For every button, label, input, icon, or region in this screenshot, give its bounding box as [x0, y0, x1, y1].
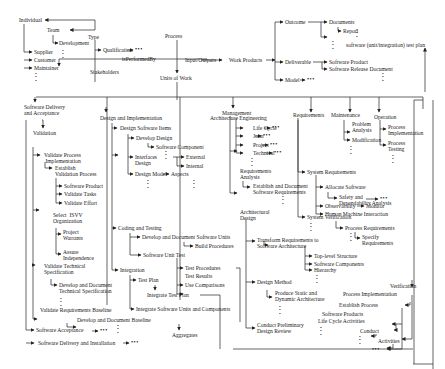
node-software-acceptance: Software Acceptance: [36, 327, 83, 333]
ellipsis-vertical: •••: [193, 179, 195, 189]
ellipsis-vertical: •••: [165, 150, 167, 160]
node-qualification: Qualification: [103, 47, 133, 53]
node-maintenance: Maintenance: [331, 112, 360, 118]
node-develop-design: Develop Design: [136, 135, 172, 141]
ellipsis: •••: [100, 327, 108, 333]
node-work-products: Work Products: [229, 57, 262, 63]
node-establish-document-software-requirements: Establish and DocumentSoftware Requireme…: [253, 183, 308, 196]
node-management: Management: [222, 110, 251, 116]
node-life-cycle-activities: Life Cycle Activities: [318, 318, 365, 324]
node-specify-requirements: SpecifyRequirements: [362, 234, 393, 247]
node-internal: Internal: [186, 163, 203, 169]
node-use-comparisons: Use Comparisons: [185, 282, 225, 288]
ellipsis-vertical: •••: [359, 335, 361, 345]
node-develop-document-baseline: Develop and Document Baseline: [77, 317, 151, 323]
node-process: Process: [165, 33, 182, 39]
ellipsis-vertical: •••: [60, 297, 62, 307]
node-assure-independence: AssureIndependence: [63, 249, 94, 262]
node-validate-technical-specification: Validate TechnicalSpecification: [44, 263, 85, 276]
node-units-of-work: Units of Work: [160, 75, 192, 81]
node-development: Development: [59, 40, 89, 46]
node-maintainer: Maintainer: [34, 65, 59, 71]
node-outcome: Outcome: [285, 19, 306, 25]
node-test-plan: software (unit/integration) test plan: [346, 42, 425, 48]
label: and Acceptance: [24, 110, 59, 116]
node-project-warrants: ProjectWarrants: [63, 229, 83, 242]
node-validation: Validation: [33, 130, 56, 136]
node-system-verification: System Verification: [307, 214, 351, 220]
node-process-testing: ProcessTesting: [388, 140, 405, 153]
node-type: Type: [88, 34, 99, 40]
node-process-requirements: Process Requirements: [345, 225, 395, 231]
ellipsis-vertical: •••: [279, 305, 281, 315]
node-individual: Individual: [19, 17, 42, 23]
node-select-isvv-organization: Select ISVVOrganization: [53, 212, 83, 225]
node-allocate-software: Allocate Software: [325, 184, 366, 190]
ellipsis-vertical: •••: [356, 28, 358, 38]
node-team: Team: [47, 27, 59, 33]
node-aspects: Aspects: [171, 171, 189, 177]
node-software-unit-test: Software Unit Test: [143, 252, 185, 258]
edge-input-outputs: Input/Outputs: [185, 57, 216, 63]
node-integrate-test-plan: Integrate Test Plan: [147, 292, 189, 298]
node-develop-document-software-units: Develop and Document Software Units: [142, 234, 230, 240]
node-system-requirements: System Requirements: [307, 169, 356, 175]
node-supplier: Supplier: [34, 49, 53, 55]
ellipsis-vertical: •••: [282, 195, 284, 205]
node-software-product: Software Product: [329, 59, 368, 65]
ellipsis-vertical: •••: [147, 179, 149, 189]
node-test-results: Test Results: [185, 273, 212, 279]
ellipsis-vertical: •••: [332, 40, 334, 50]
node-conduct-preliminary-design-review: Conduct PreliminaryDesign Review: [257, 322, 304, 335]
ellipsis: •••: [380, 195, 388, 201]
node-requirements-analysis: RequirementsAnalysis: [240, 168, 271, 181]
ellipsis: •••: [263, 132, 271, 138]
node-customer: Customer: [34, 57, 56, 63]
ellipsis: •••: [372, 346, 380, 352]
node-problem-analysis: ProblemAnalysis: [352, 121, 372, 134]
ellipsis-vertical: •••: [316, 274, 318, 284]
node-verification: Verification: [390, 283, 416, 289]
node-process-implementation-op: ProcessImplementation: [388, 124, 423, 137]
node-coding-and-testing: Coding and Testing: [118, 225, 162, 231]
node-technical: Technical: [253, 150, 275, 156]
node-stakeholders: Stakeholders: [90, 69, 119, 75]
ellipsis-vertical: •••: [310, 222, 312, 232]
node-top-level-structure: Top-level Structure: [314, 253, 357, 259]
node-requirements: Requirements: [293, 112, 324, 118]
node-documents: Documents: [329, 19, 354, 25]
ellipsis-vertical: •••: [392, 154, 394, 164]
node-design-software-items: Design Software Items: [120, 125, 171, 131]
node-project: Project: [253, 142, 269, 148]
ellipsis-vertical: •••: [320, 326, 322, 336]
ellipsis-vertical: •••: [117, 324, 119, 334]
node-software-component: Software Component: [156, 144, 204, 150]
node-integrate-software-units-components: Integrate Software Units and Components: [136, 306, 230, 312]
node-test-plan-int: Test Plan: [138, 277, 159, 283]
node-software-product-val: Software Product: [64, 183, 103, 189]
label: Software Delivery: [24, 104, 65, 110]
node-test-procedures: Test Procedures: [185, 265, 221, 271]
node-build-procedures: Build Procedures: [195, 243, 234, 249]
node-process-implementation-ver: Process Implementation: [343, 291, 397, 297]
ellipsis: •••: [270, 141, 278, 147]
ellipsis-vertical: •••: [35, 72, 37, 82]
node-transform-requirements: Transform Requirements toSoftware Archit…: [257, 237, 319, 250]
node-software-products: Software Products: [322, 311, 363, 317]
node-establish-process: Establish Process: [339, 302, 378, 308]
ellipsis: •••: [272, 124, 280, 130]
node-model: Model: [285, 77, 300, 83]
node-design-model: Design Model: [135, 171, 167, 177]
node-design-and-implementation: Design and Implementation: [100, 115, 162, 121]
ellipsis-vertical: •••: [350, 145, 352, 155]
node-software-delivery-installation: Software Delivery and Installation: [38, 340, 115, 346]
ellipsis-vertical: •••: [382, 72, 384, 82]
node-observability: Observability: [325, 203, 355, 209]
node-activities: Activities: [378, 338, 400, 344]
node-develop-document-technical-specification: Develop and DocumentTechnical Specificat…: [59, 282, 112, 295]
node-validate-requirements-baseline: Validate Requirements Baseline: [40, 307, 111, 313]
node-modification: Modification: [352, 137, 381, 143]
node-integration: Integration: [120, 267, 145, 273]
node-software-delivery-and-acceptance: Software Deliveryand Acceptance: [24, 104, 65, 117]
edge-is-performed-by: isPerformedBy: [122, 56, 156, 62]
